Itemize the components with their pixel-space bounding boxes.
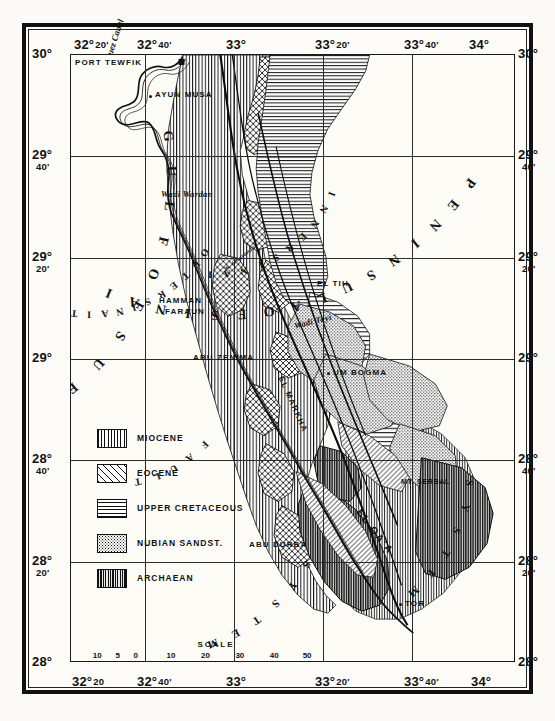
legend-item: UPPER CRETACEOUS xyxy=(97,495,287,521)
scale-unit: Km. xyxy=(323,660,339,662)
latitude-label-left: 29° xyxy=(32,351,52,363)
scale-tick: 30 xyxy=(235,651,244,660)
map-label-glyph: G xyxy=(160,130,177,143)
legend-item: MIOCENE xyxy=(97,425,287,451)
latitude-label-right: 30° xyxy=(518,47,538,59)
longitude-label-top: 32°40' xyxy=(137,35,172,53)
label-wadi-wardan: Wadi Wardan xyxy=(161,189,213,199)
latitude-label-right: 29°40' xyxy=(518,148,538,172)
scale-tick: 20 xyxy=(201,651,210,660)
longitude-label-top: 33°40' xyxy=(404,35,439,53)
map-label-glyph: I xyxy=(208,269,212,280)
map-neatline: PORT TEWFIK AYUN MUSA HAMMAN FARAUN ABU … xyxy=(70,54,515,662)
longitude-label-bottom: 32°20 xyxy=(72,672,104,690)
legend-swatch-nubian-sandstone xyxy=(97,534,127,553)
latitude-label-right: 29°20' xyxy=(518,250,538,274)
legend-label-upper-cretaceous: UPPER CRETACEOUS xyxy=(137,503,244,513)
legend-swatch-miocene xyxy=(97,429,127,448)
grid-line-horizontal xyxy=(71,156,514,157)
scale-tick: 5 xyxy=(115,651,119,660)
latitude-label-left: 29°40' xyxy=(32,148,52,172)
legend-item: ARCHAEAN xyxy=(97,565,287,591)
scale-tick: 0 xyxy=(134,651,138,660)
label-abu-zenima: ABU ZENIMA xyxy=(193,353,254,362)
longitude-label-bottom: 33° xyxy=(226,672,246,690)
marker-ayun-musa xyxy=(149,95,152,98)
legend-label-miocene: MIOCENE xyxy=(137,433,184,443)
scale-tick: 10 xyxy=(93,651,102,660)
scale-tick-labels: 10501020304050 xyxy=(89,651,329,662)
latitude-label-right: 28°40' xyxy=(518,452,538,476)
map-label-glyph: I xyxy=(184,305,191,322)
label-mt-serbal: MT. SERBAL xyxy=(401,478,450,485)
grid-line-horizontal xyxy=(71,258,514,259)
latitude-label-left: 29°20' xyxy=(32,250,52,274)
grid-line-vertical xyxy=(412,55,413,661)
map-page: Suez Canal xyxy=(0,0,555,721)
longitude-label-top: 33° xyxy=(226,35,246,53)
grid-line-vertical xyxy=(323,55,324,661)
latitude-label-right: 28° xyxy=(518,655,538,667)
scale-tick: 40 xyxy=(270,651,279,660)
map-label-glyph: N xyxy=(115,305,124,317)
label-um-bogma: UM BOGMA xyxy=(333,368,387,377)
map-label-glyph: U xyxy=(163,166,179,176)
scale-bar-group: SCALE 10501020304050 Km. xyxy=(89,640,329,662)
marker-um-bogma xyxy=(327,372,330,375)
map-label-glyph: I xyxy=(88,309,92,320)
longitude-label-top: 32°20' xyxy=(74,35,109,53)
legend-swatch-archaean xyxy=(97,569,127,588)
longitude-label-bottom: 34° xyxy=(471,672,491,690)
longitude-label-bottom: 33°40' xyxy=(404,672,439,690)
label-ayun-musa: AYUN MUSA xyxy=(155,90,213,99)
legend-item: NUBIAN SANDST. xyxy=(97,530,287,556)
map-label-glyph: L xyxy=(161,201,178,212)
map-label-glyph: S xyxy=(211,307,219,323)
legend-swatch-upper-cretaceous xyxy=(97,499,127,518)
legend-item: EOCENE xyxy=(97,460,287,486)
legend-swatch-eocene xyxy=(97,464,127,483)
longitude-label-bottom: 33°20' xyxy=(315,672,350,690)
latitude-label-left: 30° xyxy=(32,47,52,59)
longitude-label-top: 34° xyxy=(469,35,489,53)
latitude-label-right: 29° xyxy=(518,351,538,363)
scale-title: SCALE xyxy=(103,640,329,649)
legend-label-nubian-sandstone: NUBIAN SANDST. xyxy=(137,538,223,548)
grid-line-horizontal xyxy=(71,359,514,360)
map-label-glyph: S xyxy=(464,479,477,486)
longitude-label-bottom: 32°40' xyxy=(137,672,172,690)
map-label-glyph: F xyxy=(237,306,247,323)
map-label-glyph: A xyxy=(100,308,108,320)
latitude-label-left: 28°20' xyxy=(32,554,52,578)
legend-label-eocene: EOCENE xyxy=(137,468,179,478)
latitude-label-left: 28°40' xyxy=(32,452,52,476)
longitude-label-top: 33°20' xyxy=(315,35,350,53)
scale-tick: 10 xyxy=(167,651,176,660)
marker-tor xyxy=(399,603,402,606)
scale-tick: 50 xyxy=(303,651,312,660)
map-label-glyph: O xyxy=(262,302,275,320)
latitude-label-right: 28°20' xyxy=(518,554,538,578)
map-legend: MIOCENE EOCENE UPPER CRETACEOUS NUBIAN S… xyxy=(97,425,287,600)
label-tor: TOR xyxy=(405,599,425,608)
legend-label-archaean: ARCHAEAN xyxy=(137,573,194,583)
latitude-label-left: 28° xyxy=(32,655,52,667)
label-port-tewfik: PORT TEWFIK xyxy=(75,58,142,67)
